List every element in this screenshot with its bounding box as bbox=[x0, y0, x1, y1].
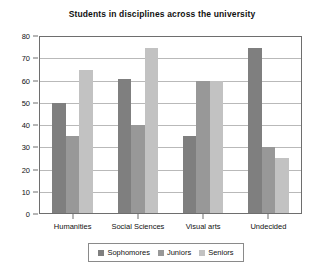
bar-group bbox=[52, 37, 92, 213]
y-tick-label: 70 bbox=[22, 54, 30, 63]
chart-title: Students in disciplines across the unive… bbox=[0, 9, 324, 19]
y-tick-mark bbox=[33, 80, 38, 81]
x-tick-label: Undecided bbox=[250, 222, 286, 231]
x-tick-mark bbox=[203, 214, 204, 219]
y-tick-mark bbox=[33, 169, 38, 170]
bar-chart: Students in disciplines across the unive… bbox=[0, 0, 324, 274]
y-tick-label: 10 bbox=[22, 187, 30, 196]
y-tick-label: 80 bbox=[22, 32, 30, 41]
legend-entry: Seniors bbox=[199, 248, 233, 257]
bar-group bbox=[183, 37, 223, 213]
legend-swatch bbox=[98, 250, 104, 256]
y-tick-label: 60 bbox=[22, 76, 30, 85]
bar bbox=[262, 147, 275, 213]
bar bbox=[248, 48, 261, 213]
y-tick-label: 40 bbox=[22, 121, 30, 130]
y-tick-mark bbox=[33, 58, 38, 59]
legend-label: Juniors bbox=[167, 248, 191, 257]
y-tick-label: 30 bbox=[22, 143, 30, 152]
bar bbox=[196, 81, 209, 213]
x-tick-mark bbox=[268, 214, 269, 219]
legend-label: Seniors bbox=[208, 248, 233, 257]
y-tick-mark bbox=[33, 191, 38, 192]
x-tick-mark bbox=[137, 214, 138, 219]
legend-entry: Juniors bbox=[158, 248, 191, 257]
bar bbox=[52, 103, 65, 213]
y-tick-label: 20 bbox=[22, 165, 30, 174]
bar bbox=[210, 81, 223, 213]
legend-label: Sophomores bbox=[107, 248, 150, 257]
x-tick-label: Humanities bbox=[54, 222, 92, 231]
x-axis: HumanitiesSocial SciencesVisual artsUnde… bbox=[39, 214, 302, 240]
bar bbox=[275, 158, 288, 213]
y-tick-label: 0 bbox=[26, 210, 30, 219]
chart-legend: SophomoresJuniorsSeniors bbox=[88, 243, 244, 262]
bar bbox=[66, 136, 79, 213]
legend-entry: Sophomores bbox=[98, 248, 150, 257]
y-tick-label: 50 bbox=[22, 98, 30, 107]
y-tick-mark bbox=[33, 36, 38, 37]
y-tick-mark bbox=[33, 102, 38, 103]
x-tick-label: Social Sciences bbox=[111, 222, 164, 231]
bar bbox=[183, 136, 196, 213]
x-tick-label: Visual arts bbox=[186, 222, 221, 231]
bars-layer bbox=[40, 37, 301, 213]
bar bbox=[118, 79, 131, 213]
x-tick-mark bbox=[72, 214, 73, 219]
y-tick-mark bbox=[33, 214, 38, 215]
y-axis: 01020304050607080 bbox=[0, 36, 39, 214]
bar bbox=[145, 48, 158, 213]
y-tick-mark bbox=[33, 125, 38, 126]
legend-swatch bbox=[199, 250, 205, 256]
legend-swatch bbox=[158, 250, 164, 256]
bar bbox=[131, 125, 144, 213]
bar-group bbox=[118, 37, 158, 213]
y-tick-mark bbox=[33, 147, 38, 148]
bar bbox=[79, 70, 92, 213]
bar-group bbox=[248, 37, 288, 213]
